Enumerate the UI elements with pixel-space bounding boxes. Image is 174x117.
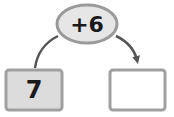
output-arrow [116,36,137,60]
input-value: 7 [6,70,62,110]
output-value[interactable] [110,70,165,110]
operator-label: +6 [57,5,117,43]
input-connector-line [35,36,58,68]
